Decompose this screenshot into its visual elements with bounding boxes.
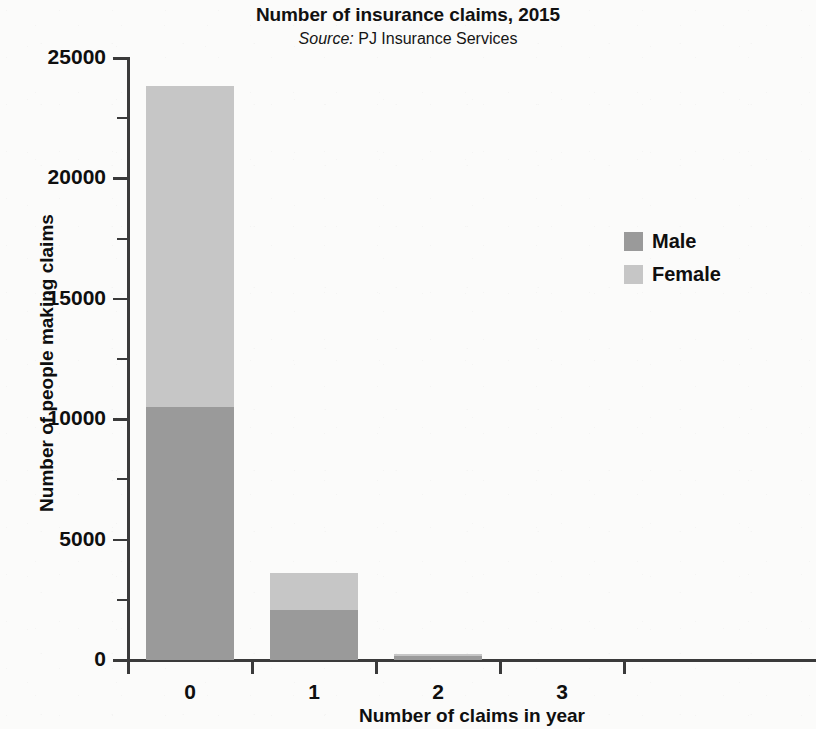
legend-item[interactable]: Male <box>624 225 721 258</box>
legend-swatch-icon <box>624 232 643 251</box>
plot-area <box>128 58 816 660</box>
y-axis-minor-tick <box>117 117 127 119</box>
x-axis-tick <box>251 660 254 674</box>
bar-group[interactable] <box>270 58 358 660</box>
bar-group[interactable] <box>146 58 234 660</box>
bar-group[interactable] <box>394 58 482 660</box>
legend-label: Female <box>652 263 721 286</box>
x-axis-tick <box>127 660 130 674</box>
y-axis-tick-label: 15000 <box>0 286 106 310</box>
bar-segment-female[interactable] <box>394 654 482 656</box>
x-axis-tick <box>623 660 626 674</box>
legend-swatch-icon <box>624 265 643 284</box>
chart-page: Number of insurance claims, 2015 Source:… <box>0 0 816 729</box>
y-axis-minor-tick <box>117 238 127 240</box>
x-axis-tick-label: 3 <box>500 680 624 704</box>
y-axis-tick <box>113 418 127 421</box>
x-axis-tick-label: 0 <box>128 680 252 704</box>
x-axis-tick <box>375 660 378 674</box>
y-axis-tick <box>113 57 127 60</box>
bar-group[interactable] <box>518 58 606 660</box>
x-axis-tick-label: 2 <box>376 680 500 704</box>
y-axis-tick <box>113 298 127 301</box>
y-axis-tick-label: 0 <box>0 647 106 671</box>
bar-segment-male[interactable] <box>146 407 234 660</box>
y-axis-minor-tick <box>117 599 127 601</box>
y-axis-tick-label: 25000 <box>0 45 106 69</box>
legend-label: Male <box>652 230 696 253</box>
y-axis-tick <box>113 659 127 662</box>
y-axis-minor-tick <box>117 358 127 360</box>
bar-segment-female[interactable] <box>270 573 358 610</box>
bar-segment-male[interactable] <box>394 656 482 660</box>
source-value: PJ Insurance Services <box>358 30 517 47</box>
bar-segment-male[interactable] <box>270 610 358 660</box>
chart-title: Number of insurance claims, 2015 <box>0 4 816 26</box>
y-axis-tick <box>113 177 127 180</box>
y-axis-tick-label: 10000 <box>0 406 106 430</box>
bar-segment-female[interactable] <box>146 86 234 407</box>
x-axis-tick-label: 1 <box>252 680 376 704</box>
chart-source-subtitle: Source: PJ Insurance Services <box>0 30 816 48</box>
y-axis-tick-label: 5000 <box>0 527 106 551</box>
y-axis-tick-label: 20000 <box>0 165 106 189</box>
x-axis-title: Number of claims in year <box>128 705 816 727</box>
y-axis-minor-tick <box>117 478 127 480</box>
y-axis-tick <box>113 539 127 542</box>
chart-legend: MaleFemale <box>624 225 721 291</box>
legend-item[interactable]: Female <box>624 258 721 291</box>
source-label: Source: <box>299 30 354 47</box>
x-axis-tick <box>499 660 502 674</box>
